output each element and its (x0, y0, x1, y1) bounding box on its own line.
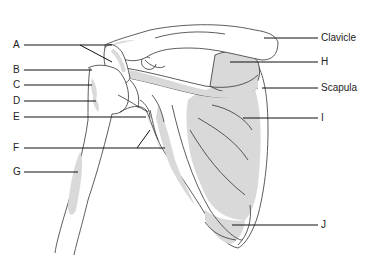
label-j: J (321, 220, 326, 230)
label-clavicle: Clavicle (321, 33, 356, 43)
label-g: G (13, 167, 21, 177)
label-e: E (13, 112, 20, 122)
label-f: F (13, 143, 19, 153)
label-c: C (13, 80, 20, 90)
label-a: A (13, 40, 20, 50)
shoulder-diagram (0, 0, 373, 270)
label-b: B (13, 65, 20, 75)
label-d: D (13, 96, 20, 106)
clavicle-bone (105, 25, 278, 61)
label-scapula: Scapula (321, 83, 357, 93)
label-h: H (321, 57, 328, 67)
humerus-bone (55, 65, 148, 255)
label-i: I (321, 113, 324, 123)
